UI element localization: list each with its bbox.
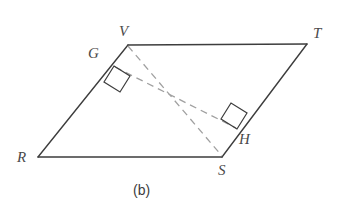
vertex-label-G: G (88, 46, 99, 61)
edge-ST (222, 44, 307, 157)
vertex-label-T: T (313, 26, 321, 41)
edge-RV (38, 45, 128, 157)
solid-edges-group (38, 44, 307, 157)
right-angle-marks-group (104, 66, 247, 129)
geometry-figure-b: V T R S G H (b) (0, 0, 343, 212)
vertex-label-S: S (218, 163, 226, 178)
dashed-edges-group (115, 46, 236, 156)
vertex-label-R: R (17, 150, 26, 165)
altitude-GH (115, 67, 236, 128)
vertex-label-V: V (119, 24, 128, 39)
right-angle-at-H (221, 103, 247, 129)
diagonal-VS (128, 46, 222, 156)
vertex-label-H: H (239, 132, 250, 147)
edge-VT (128, 44, 307, 45)
figure-canvas (0, 0, 343, 212)
figure-caption: (b) (133, 183, 150, 197)
